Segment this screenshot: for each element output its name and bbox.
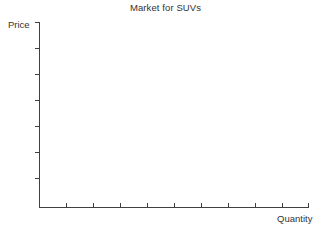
chart-container: Market for SUVs Price Quantity xyxy=(0,0,331,230)
y-axis-ticks xyxy=(35,22,40,178)
plot-area xyxy=(40,22,308,207)
